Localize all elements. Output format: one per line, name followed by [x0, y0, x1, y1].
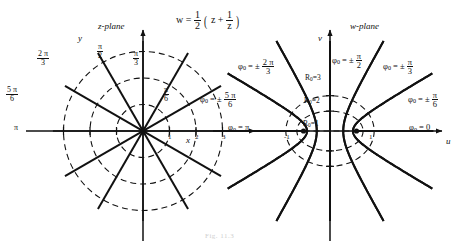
formula-lhs: w — [176, 14, 183, 25]
joukowski-mapping-figure: z-plane y x 1 2 3 π 6 π 3 π 2 2 π 3 5 π … — [0, 0, 465, 246]
formula-plus: + — [218, 14, 224, 25]
z-angle-5pi-over-6: 5 π 6 — [6, 86, 18, 103]
w-phi-label-pi: φ0 = π — [228, 123, 249, 133]
fraction: 5 π 6 — [224, 91, 237, 109]
z-axis-y-label: y — [78, 34, 82, 43]
fraction: π 2 — [356, 52, 362, 70]
w-phi-label-2pi-over-3: φ0 = ± 2 π 3 — [238, 58, 274, 76]
w-phi-label-0: φ0 = 0 — [409, 123, 430, 133]
w-focus-left — [301, 128, 306, 133]
formula-one-over-z: 1 z — [226, 10, 233, 31]
formula-z: z — [211, 14, 215, 25]
z-angle-pi-over-2: π 2 — [97, 43, 103, 60]
w-ellipse-label-R0-1: R0=1 — [303, 120, 319, 129]
w-branch-point-right: 1 — [369, 134, 373, 141]
formula-half: 1 2 — [194, 10, 201, 31]
z-tick-3: 3 — [222, 134, 226, 141]
w-phi-label-pi-over-2: φ0 = ± π 2 — [332, 52, 362, 70]
z-angle-pi: π — [14, 124, 18, 132]
figure-caption: Fig. 11.3 — [205, 233, 234, 240]
z-origin-dot — [140, 128, 146, 134]
figure-graphics — [26, 30, 442, 241]
z-tick-1: 1 — [168, 134, 172, 141]
formula-paren-open: ( — [204, 15, 207, 27]
fraction: π 3 — [407, 58, 413, 76]
z-angle-pi-over-3: π 3 — [133, 50, 139, 67]
formula-equals: = — [186, 14, 192, 25]
formula-paren-close: ) — [236, 15, 239, 27]
fraction: 2 π 3 — [37, 50, 49, 67]
fraction: π 2 — [97, 43, 103, 60]
w-ellipse-label-R0-3: R0=3 — [305, 74, 321, 83]
mapping-formula: w = 1 2 ( z + 1 z ) — [176, 10, 240, 31]
z-angle-pi-over-6: π 6 — [163, 86, 169, 103]
w-phi-label-pi-over-3: φ0 = ± π 3 — [383, 58, 413, 76]
z-angle-2pi-over-3: 2 π 3 — [37, 50, 49, 67]
fraction: π 6 — [432, 91, 438, 109]
fraction: π 3 — [133, 50, 139, 67]
fraction: 5 π 6 — [6, 86, 18, 103]
w-phi-label-5pi-over-6: φ0 = ± 5 π 6 — [200, 91, 236, 109]
fraction: π 6 — [163, 86, 169, 103]
w-axis-v-label: v — [318, 34, 322, 43]
w-plane-title: w-plane — [350, 22, 379, 31]
z-plane-title: z-plane — [98, 22, 125, 31]
z-tick-2: 2 — [195, 134, 199, 141]
w-phi-label-pi-over-6: φ0 = ± π 6 — [408, 91, 438, 109]
z-axis-x-label: x — [186, 136, 190, 145]
fraction: 2 π 3 — [262, 58, 275, 76]
w-focus-right — [354, 128, 359, 133]
w-axis-u-label: u — [446, 137, 451, 146]
w-ellipse-label-R0-2: R0=2 — [304, 97, 320, 106]
w-branch-point-left: -1 — [284, 134, 290, 141]
